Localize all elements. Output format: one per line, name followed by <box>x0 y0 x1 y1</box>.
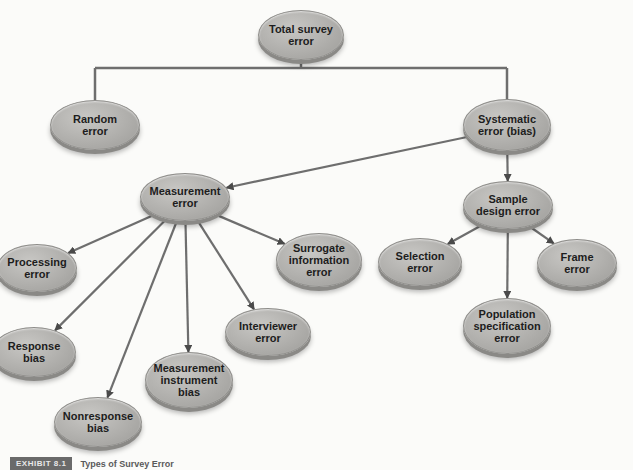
node-selection: Selection error <box>378 238 462 286</box>
node-instrument: Measurement instrument bias <box>145 352 233 408</box>
node-processing: Processing error <box>0 244 77 292</box>
node-label: Processing error <box>3 256 70 280</box>
node-label: Random error <box>69 113 121 137</box>
node-label: Selection error <box>392 250 449 274</box>
node-population: Population specification error <box>463 298 551 354</box>
node-label: Nonresponse bias <box>59 410 137 434</box>
node-label: Systematic error (bias) <box>474 113 540 137</box>
node-surrogate: Surrogate information error <box>276 233 362 287</box>
node-label: Surrogate information error <box>285 242 354 278</box>
caption-tag: EXHIBIT 8.1 <box>10 457 72 470</box>
figure-caption: EXHIBIT 8.1 Types of Survey Error <box>10 457 174 470</box>
node-interviewer: Interviewer error <box>225 308 311 356</box>
node-label: Sample design error <box>472 193 544 217</box>
node-label: Measurement instrument bias <box>150 362 229 398</box>
tree-connectors <box>95 60 507 100</box>
node-systematic: Systematic error (bias) <box>463 99 551 151</box>
node-total: Total survey error <box>258 10 344 60</box>
caption-text: Types of Survey Error <box>80 459 173 469</box>
node-frame: Frame error <box>537 239 617 287</box>
node-measurement: Measurement error <box>140 173 230 221</box>
node-label: Measurement error <box>146 185 225 209</box>
node-nonresponse: Nonresponse bias <box>54 397 142 447</box>
node-label: Frame error <box>556 251 597 275</box>
node-sample-design: Sample design error <box>463 181 553 229</box>
node-random: Random error <box>50 100 140 150</box>
node-label: Population specification error <box>469 308 544 344</box>
node-label: Response bias <box>4 340 65 364</box>
node-label: Interviewer error <box>235 320 301 344</box>
node-label: Total survey error <box>265 23 337 47</box>
